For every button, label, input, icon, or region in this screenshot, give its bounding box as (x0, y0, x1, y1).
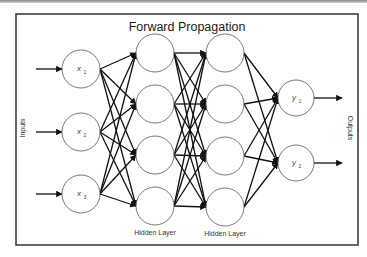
hidden2-node-1 (206, 34, 244, 72)
connection (244, 98, 278, 207)
output-node-2 (278, 145, 314, 181)
connection (100, 69, 136, 206)
input-node-3 (62, 175, 100, 213)
neural-network-diagram: Forward Propagation Inputs Outputs x1x2x… (0, 0, 367, 257)
hidden1-node-3 (136, 136, 174, 174)
nodes: x1x2x3y1y2 (62, 34, 314, 226)
connection (174, 206, 206, 207)
node-subscript: 2 (299, 163, 302, 169)
hidden2-node-3 (206, 137, 244, 175)
inputs-label: Inputs (19, 118, 27, 138)
node-subscript: 2 (84, 132, 87, 138)
hidden1-node-4 (136, 187, 174, 225)
outputs-label: Outputs (346, 116, 354, 141)
layer-captions: Hidden LayerHidden Layer (134, 229, 246, 238)
node-subscript: 1 (299, 98, 302, 104)
layer-caption: Hidden Layer (134, 229, 176, 237)
node-subscript: 3 (84, 194, 87, 200)
input-node-1 (62, 50, 100, 88)
connection (244, 156, 278, 163)
connection (244, 53, 278, 98)
connection (244, 163, 278, 207)
output-node-1 (278, 80, 314, 116)
layer-caption: Hidden Layer (204, 230, 246, 238)
connection (244, 98, 278, 104)
hidden2-node-2 (206, 85, 244, 123)
node-subscript: 1 (84, 69, 87, 75)
hidden2-node-4 (206, 188, 244, 226)
connection (100, 53, 136, 132)
hidden1-node-1 (136, 34, 174, 72)
input-node-2 (62, 113, 100, 151)
hidden1-node-2 (136, 85, 174, 123)
connection (100, 53, 136, 69)
diagram-title: Forward Propagation (129, 20, 246, 34)
